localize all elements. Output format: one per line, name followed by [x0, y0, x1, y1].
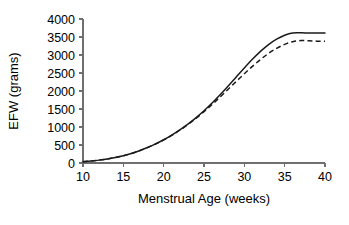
x-axis-tick-labels: 10152025303540: [76, 170, 332, 184]
y-tick-label: 2000: [47, 85, 75, 99]
y-axis-tick-labels: 05001000150020002500300035004000: [47, 13, 75, 171]
x-tick-label: 40: [318, 170, 332, 184]
y-tick-label: 4000: [47, 13, 75, 27]
x-axis-title: Menstrual Age (weeks): [138, 191, 270, 206]
x-tick-label: 25: [197, 170, 211, 184]
x-axis-tick-marks: [83, 163, 325, 167]
y-axis-tick-marks: [79, 19, 83, 163]
y-tick-label: 0: [68, 157, 75, 171]
y-axis-title: EFW (grams): [6, 52, 21, 129]
y-tick-label: 500: [54, 139, 75, 153]
y-tick-label: 3000: [47, 49, 75, 63]
x-tick-label: 30: [237, 170, 251, 184]
y-tick-label: 2500: [47, 67, 75, 81]
series-line-solid: [83, 33, 325, 162]
chart-container: 05001000150020002500300035004000 1015202…: [0, 0, 349, 225]
y-tick-label: 3500: [47, 31, 75, 45]
x-tick-label: 15: [116, 170, 130, 184]
y-tick-label: 1500: [47, 103, 75, 117]
y-tick-label: 1000: [47, 121, 75, 135]
x-tick-label: 20: [157, 170, 171, 184]
x-tick-label: 10: [76, 170, 90, 184]
series-line-dashed: [83, 41, 325, 162]
x-tick-label: 35: [278, 170, 292, 184]
efw-growth-line-chart: 05001000150020002500300035004000 1015202…: [0, 0, 349, 225]
